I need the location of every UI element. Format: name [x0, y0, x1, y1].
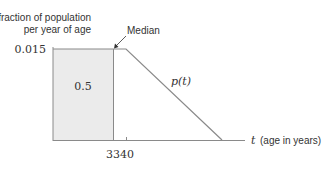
- population-density-diagram: fraction of population per year of age 0…: [0, 0, 331, 169]
- x-axis-label-text: (age in years): [260, 135, 321, 146]
- x-tick-label-33: 33: [106, 148, 120, 161]
- x-axis-label-variable: t: [251, 134, 256, 147]
- curve-label: p(t): [171, 75, 191, 88]
- median-arrow: [116, 36, 126, 46]
- area-label: 0.5: [74, 80, 92, 93]
- shaded-area-median: [53, 49, 113, 140]
- y-axis-label-line1: fraction of population: [0, 12, 91, 23]
- x-tick-label-40: 40: [120, 148, 134, 161]
- median-label: Median: [127, 25, 160, 36]
- y-tick-label: 0.015: [15, 43, 47, 56]
- y-axis-label-line2: per year of age: [24, 24, 92, 35]
